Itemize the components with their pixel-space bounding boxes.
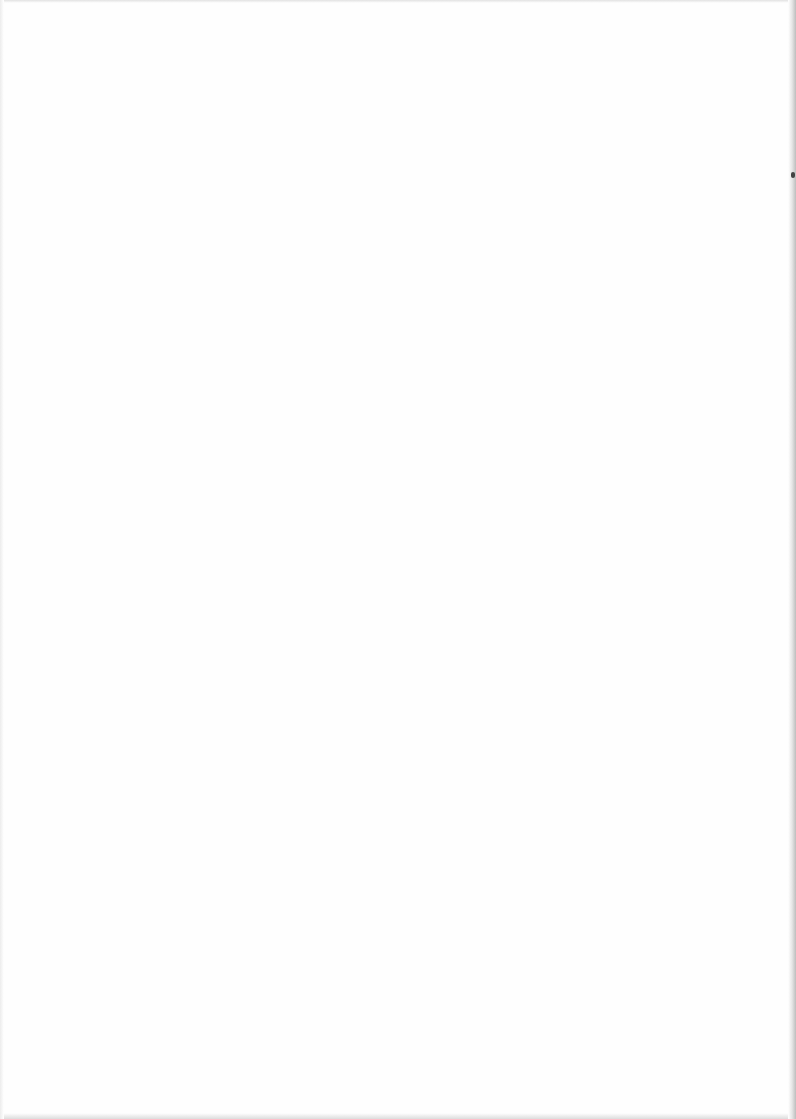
scan-edge-right: [788, 0, 796, 1119]
scanned-page: [0, 0, 796, 1119]
scan-edge-bottom: [0, 1113, 796, 1119]
scan-edge-top: [0, 0, 796, 3]
scan-edge-left: [0, 0, 4, 1119]
scan-artifact-mark: [791, 172, 795, 178]
